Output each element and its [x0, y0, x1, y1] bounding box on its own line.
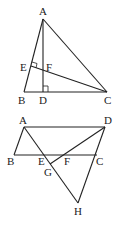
label-A: A — [19, 114, 27, 126]
figure-1-triangle: A B C D E F — [18, 5, 111, 106]
label-C: C — [104, 94, 111, 106]
label-F: F — [64, 155, 70, 167]
right-angle-D-icon — [43, 86, 48, 92]
label-C: C — [96, 155, 103, 167]
label-A: A — [39, 5, 47, 17]
label-D: D — [39, 94, 47, 106]
figure-2-parallelogram: A D B E F C G H — [7, 114, 112, 217]
label-B: B — [18, 94, 25, 106]
label-H: H — [74, 205, 82, 217]
label-D: D — [104, 114, 112, 126]
segment-AB — [14, 127, 24, 155]
label-B: B — [7, 155, 14, 167]
geometry-figures: A B C D E F A D B E F C G H — [0, 0, 122, 236]
segment-AB — [24, 19, 43, 92]
label-E: E — [20, 61, 27, 73]
label-F: F — [46, 61, 52, 73]
label-G: G — [44, 166, 52, 178]
